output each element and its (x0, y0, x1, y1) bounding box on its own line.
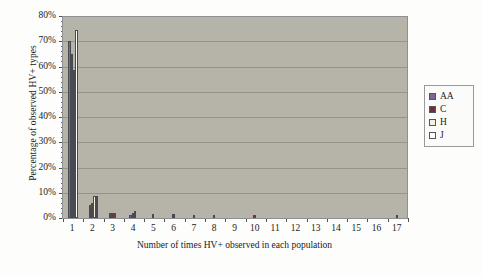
legend-label: AA (440, 91, 454, 101)
chart-figure: Percentage of observed HV+ types 0%10%20… (0, 0, 483, 277)
x-axis-title: Number of times HV+ observed in each pop… (62, 240, 407, 250)
x-tick-label: 16 (372, 222, 382, 234)
bar (114, 213, 116, 218)
y-tick-label: 0% (43, 213, 56, 223)
x-tick-label: 9 (232, 222, 237, 234)
x-tick-label: 7 (192, 222, 197, 234)
legend-item: AA (429, 90, 469, 102)
x-axis-tick-labels: 1234567891011121314151617 (62, 222, 407, 238)
y-tick-label: 30% (39, 138, 56, 148)
chart-legend: AACHJ (424, 85, 474, 147)
x-tick-label: 1 (70, 222, 75, 234)
y-tick-label: 40% (39, 112, 56, 122)
bar (96, 196, 98, 218)
bar (193, 215, 195, 218)
bar (213, 215, 215, 218)
x-tick-label: 8 (212, 222, 217, 234)
legend-label: H (440, 117, 447, 127)
legend-swatch-icon (429, 93, 436, 100)
legend-swatch-icon (429, 119, 436, 126)
bar-series-group (63, 16, 408, 218)
x-tick-label: 17 (392, 222, 402, 234)
legend-swatch-icon (429, 132, 436, 139)
x-tick-label: 11 (271, 222, 280, 234)
y-tick-label: 50% (39, 87, 56, 97)
y-tick-label: 20% (39, 163, 56, 173)
y-tick-label: 70% (39, 37, 56, 47)
x-tick-label: 5 (151, 222, 156, 234)
y-tick-label: 10% (39, 188, 56, 198)
plot-area (62, 16, 408, 219)
x-tick-label: 2 (90, 222, 95, 234)
legend-item: H (429, 116, 469, 128)
bar (152, 214, 154, 218)
bar (172, 214, 174, 218)
legend-label: J (440, 130, 444, 140)
y-axis-tick-labels: 0%10%20%30%40%50%60%70%80% (16, 16, 60, 218)
bar (134, 211, 136, 218)
x-tick-label: 12 (291, 222, 301, 234)
x-tick-label: 3 (110, 222, 115, 234)
bar (75, 30, 77, 218)
x-tick-label: 13 (311, 222, 321, 234)
x-tick-label: 15 (352, 222, 362, 234)
bar (253, 215, 255, 218)
x-tick-label: 10 (250, 222, 260, 234)
x-tick-label: 4 (131, 222, 136, 234)
bar (396, 215, 398, 218)
legend-swatch-icon (429, 106, 436, 113)
legend-label: C (440, 104, 446, 114)
x-tick-label: 14 (331, 222, 341, 234)
y-tick-label: 60% (39, 62, 56, 72)
legend-item: J (429, 129, 469, 141)
x-tick-mark (408, 218, 409, 222)
legend-item: C (429, 103, 469, 115)
y-tick-label: 80% (39, 11, 56, 21)
x-tick-label: 6 (171, 222, 176, 234)
